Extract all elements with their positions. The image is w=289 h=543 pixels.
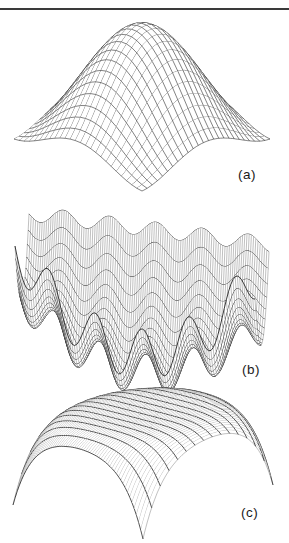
panel-label-c: (c) bbox=[241, 505, 258, 520]
surface-plot-b bbox=[15, 210, 269, 393]
panel-label-a: (a) bbox=[238, 167, 256, 182]
figure-page: (a) (b) (c) bbox=[0, 0, 289, 543]
panel-label-b: (b) bbox=[242, 362, 260, 377]
surface-plot-a bbox=[14, 23, 270, 191]
figure-svg bbox=[0, 0, 289, 543]
surface-plot-c bbox=[13, 388, 273, 539]
